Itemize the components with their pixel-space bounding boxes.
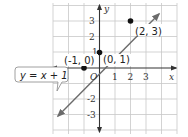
point-2-3 [128,18,134,24]
y-tick-neg2: -2 [87,94,96,104]
x-tick-2: 2 [128,72,134,82]
y-tick-2: 2 [89,32,95,42]
coordinate-plane: 3 2 1 -2 -3 -2 1 2 3 O x y (-1, 0) (0, 1… [0,0,188,137]
point-label-0-1: (0, 1) [103,54,130,65]
y-tick-3: 3 [89,16,95,26]
y-tick-neg3: -3 [87,110,96,120]
x-tick-1: 1 [112,72,118,82]
point-neg1-0 [81,65,87,71]
origin-label: O [90,72,98,82]
equation-callout: y = x + 1 [15,67,68,91]
x-axis-label: x [169,72,174,82]
equation-label: y = x + 1 [19,70,68,81]
point-label-neg1-0: (-1, 0) [64,55,95,66]
x-tick-3: 3 [143,72,149,82]
y-axis-label: y [103,4,110,14]
point-label-2-3: (2, 3) [135,26,162,37]
